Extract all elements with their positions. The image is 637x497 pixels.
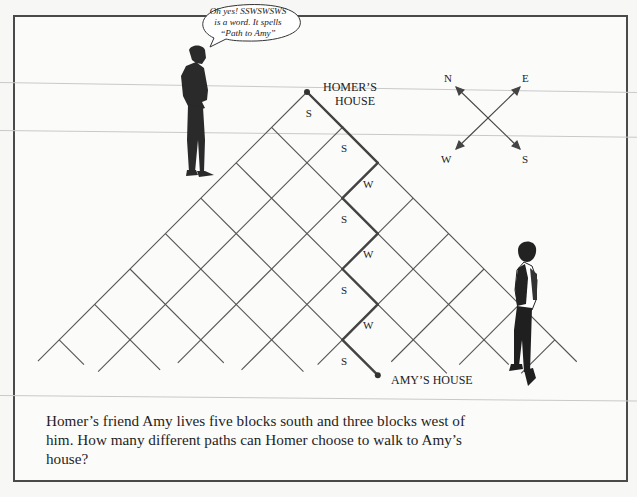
bubble-line-1: Oh yes! SSWSWSWS xyxy=(206,6,290,17)
path-step-label: S xyxy=(341,213,347,225)
compass-icon xyxy=(456,87,520,149)
homer-house-dot xyxy=(304,89,310,95)
path-step-label: W xyxy=(363,178,373,190)
street-grid xyxy=(38,92,577,373)
path-step-label: S xyxy=(341,355,347,367)
path-step-label: S xyxy=(341,142,347,154)
compass-south-label: S xyxy=(522,153,528,165)
compass-east-label: E xyxy=(522,72,529,84)
homer-figure xyxy=(181,46,214,178)
speech-bubble-text: Oh yes! SSWSWSWS is a word. It spells “P… xyxy=(206,6,290,39)
path-step-label: S xyxy=(306,107,312,119)
amy-figure xyxy=(509,241,537,386)
path-step-label: W xyxy=(363,248,373,260)
compass-north-label: N xyxy=(444,72,452,84)
homer-house-line1: HOMER’S xyxy=(323,80,377,94)
bubble-line-3: “Path to Amy” xyxy=(206,28,290,39)
path-step-label: W xyxy=(363,319,373,331)
amy-house-dot xyxy=(375,372,381,378)
path-step-label: S xyxy=(341,284,347,296)
bubble-line-2: is a word. It spells xyxy=(206,17,290,28)
highlighted-path xyxy=(307,92,378,375)
problem-statement: Homer’s friend Amy lives five blocks sou… xyxy=(46,411,466,468)
homer-house-label: HOMER’S HOUSE xyxy=(323,80,377,108)
homer-house-line2: HOUSE xyxy=(323,94,377,108)
compass-west-label: W xyxy=(441,153,451,165)
amy-house-label: AMY’S HOUSE xyxy=(391,373,473,387)
